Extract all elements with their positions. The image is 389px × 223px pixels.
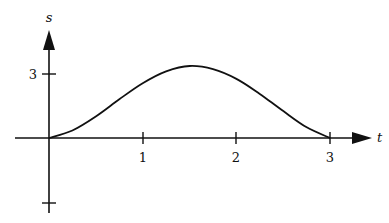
- x-tick-label-2: 2: [232, 150, 240, 165]
- s-curve: [49, 66, 330, 138]
- x-tick-label-3: 3: [326, 150, 334, 165]
- y-axis-arrow-icon: [43, 30, 55, 50]
- x-axis-label: t: [377, 130, 383, 145]
- y-axis-label: s: [46, 10, 53, 25]
- x-tick-label-1: 1: [139, 150, 147, 165]
- y-tick-label-3: 3: [29, 67, 37, 82]
- x-axis-arrow-icon: [352, 132, 372, 144]
- motion-graph: 1 2 3 3 t s: [0, 0, 389, 223]
